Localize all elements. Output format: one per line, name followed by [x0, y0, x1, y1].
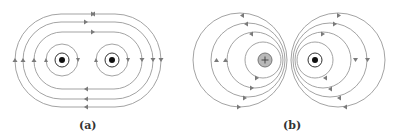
panel-a-arrows	[13, 12, 164, 110]
wire-out-of-page-right	[109, 57, 115, 63]
field-lines-diagram	[0, 0, 398, 136]
wire-out-of-page	[312, 57, 318, 63]
panel-a	[15, 14, 161, 107]
panel-a-label: (a)	[79, 119, 97, 132]
wire-out-of-page-left	[59, 57, 65, 63]
panel-b-label: (b)	[283, 119, 301, 132]
